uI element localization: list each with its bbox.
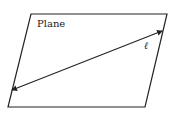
line-label: ℓ bbox=[144, 40, 148, 51]
plane-diagram: Plane ℓ bbox=[0, 0, 170, 114]
line-l bbox=[12, 31, 162, 90]
plane-label: Plane bbox=[37, 18, 65, 29]
